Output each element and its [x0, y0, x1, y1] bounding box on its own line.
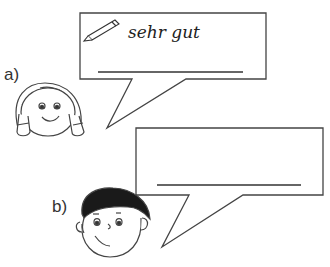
item-label-a: a)	[4, 65, 19, 85]
example-answer-text: sehr gut	[128, 22, 200, 42]
speech-bubble-b	[136, 128, 323, 247]
girl-face	[16, 83, 84, 136]
boy-face	[76, 188, 150, 257]
item-label-b: b)	[52, 197, 67, 217]
